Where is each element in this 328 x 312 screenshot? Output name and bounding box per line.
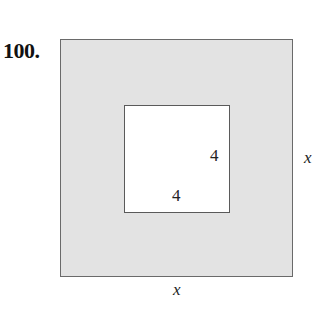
problem-number: 100. [3,38,40,64]
outer-side-label-right: x [304,148,312,168]
inner-side-label-bottom: 4 [172,186,181,206]
inner-side-label-right: 4 [210,146,219,166]
outer-side-label-bottom: x [173,280,181,300]
